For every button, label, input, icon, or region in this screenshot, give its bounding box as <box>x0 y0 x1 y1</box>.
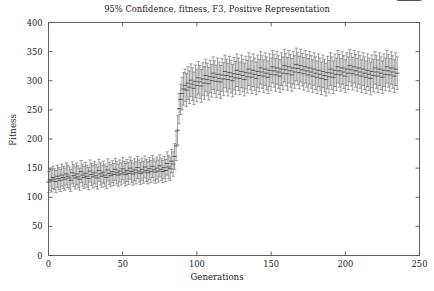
svg-text:0: 0 <box>37 251 42 261</box>
svg-text:350: 350 <box>27 47 43 57</box>
errorbar-series <box>46 0 422 193</box>
svg-text:150: 150 <box>263 259 279 269</box>
svg-text:100: 100 <box>27 192 43 202</box>
svg-text:150: 150 <box>27 163 43 173</box>
svg-text:0: 0 <box>46 259 51 269</box>
svg-text:200: 200 <box>27 134 43 144</box>
chart-figure: 95% Confidence, fitness, F3, Positive Re… <box>0 0 434 291</box>
y-axis-label: Fitness <box>8 95 18 165</box>
errorbar-plot: 050100150200250300350400050100150200250 <box>0 0 434 291</box>
svg-text:300: 300 <box>27 76 43 86</box>
svg-text:50: 50 <box>117 259 128 269</box>
svg-text:50: 50 <box>32 221 43 231</box>
svg-text:200: 200 <box>337 259 353 269</box>
svg-text:250: 250 <box>412 259 428 269</box>
svg-text:100: 100 <box>189 259 205 269</box>
svg-text:250: 250 <box>27 105 43 115</box>
svg-text:400: 400 <box>27 18 43 28</box>
x-axis-label: Generations <box>0 272 434 282</box>
